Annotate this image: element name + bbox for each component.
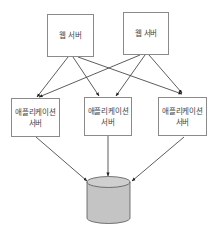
edge-app1-db bbox=[36, 137, 87, 181]
app-server-1-label-line2: 서버 bbox=[29, 118, 43, 129]
web-server-2-label: 웹 서버 bbox=[135, 28, 158, 39]
app-server-2-label-line2: 서버 bbox=[101, 117, 115, 128]
web-server-2: 웹 서버 bbox=[123, 12, 169, 55]
app-server-2-label-line1: 애플리케이션 bbox=[88, 106, 129, 117]
edge-web2-app2 bbox=[116, 55, 145, 96]
edge-app3-db bbox=[132, 137, 184, 181]
app-server-3: 애플리케이션 서버 bbox=[158, 97, 207, 136]
web-server-1: 웹 서버 bbox=[47, 14, 94, 57]
web-server-1-label: 웹 서버 bbox=[59, 30, 82, 41]
architecture-diagram: 웹 서버 웹 서버 애플리케이션 서버 애플리케이션 서버 애플리케이션 서버 bbox=[0, 0, 216, 233]
edge-web2-app3 bbox=[149, 55, 182, 93]
app-server-3-label-line2: 서버 bbox=[176, 117, 190, 128]
app-server-2: 애플리케이션 서버 bbox=[84, 97, 132, 136]
app-server-1: 애플리케이션 서버 bbox=[11, 98, 60, 137]
app-server-3-label-line1: 애플리케이션 bbox=[162, 106, 203, 117]
database-cylinder-icon bbox=[87, 177, 130, 224]
app-server-1-label-line1: 애플리케이션 bbox=[15, 107, 56, 118]
